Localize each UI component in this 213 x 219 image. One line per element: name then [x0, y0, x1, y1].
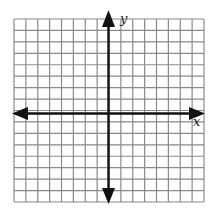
- coordinate-grid: [0, 0, 213, 219]
- x-axis-label: x: [193, 115, 200, 128]
- y-axis-label: y: [120, 12, 127, 25]
